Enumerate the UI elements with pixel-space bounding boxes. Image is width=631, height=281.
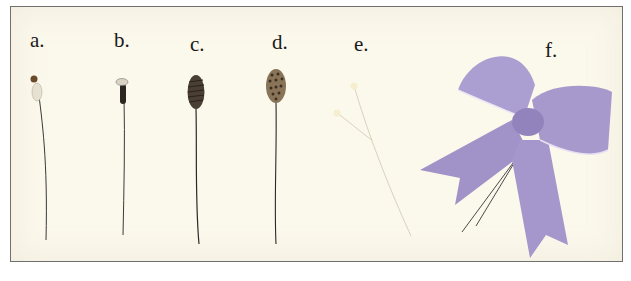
item-c-cone-pod [188,75,205,244]
item-b-dark-bud [116,79,128,236]
label-d: d. [272,32,288,53]
label-f: f. [545,40,557,61]
item-a-dried-flower [31,76,47,241]
item-d-lotus-pod [266,69,286,244]
item-f-lavender-bow [420,56,612,258]
label-e: e. [354,34,369,55]
item-e-pearl-pins [334,83,412,237]
label-a: a. [30,30,45,51]
label-c: c. [190,34,205,55]
label-b: b. [114,30,130,51]
photo-illustration [0,0,631,281]
